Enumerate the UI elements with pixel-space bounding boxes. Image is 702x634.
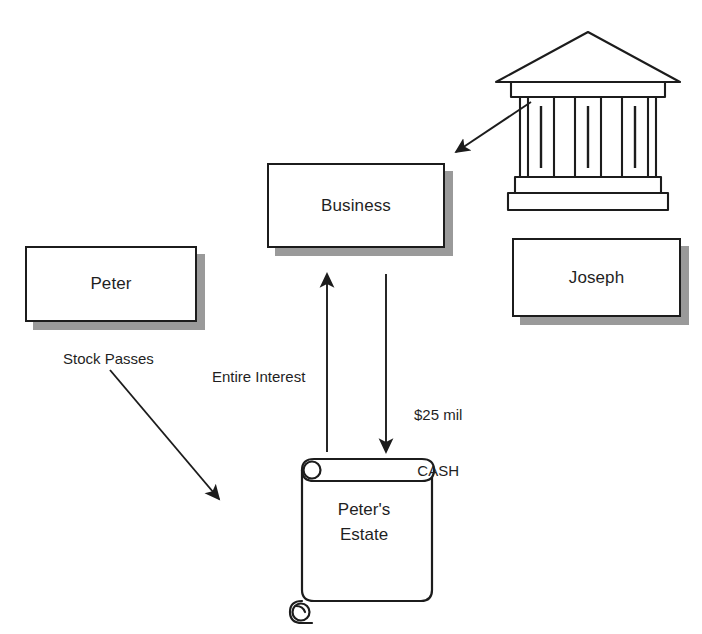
edge-label-entire-interest: Entire Interest — [212, 368, 305, 387]
edge-label-cash-line2: CASH — [414, 462, 462, 481]
edge-label-cash: $25 mil CASH — [414, 368, 462, 518]
node-estate-label-line1: Peter's — [300, 498, 428, 523]
edge-bank-to-business — [456, 102, 531, 152]
node-estate-label-line2: Estate — [300, 523, 428, 548]
edge-label-cash-line1: $25 mil — [414, 406, 462, 425]
diagram-canvas: Peter Business Joseph Peter's Estate Sto… — [0, 0, 702, 634]
node-estate-label: Peter's Estate — [300, 498, 428, 547]
edge-stock-passes — [110, 370, 219, 499]
edge-label-stock-passes: Stock Passes — [63, 350, 154, 369]
